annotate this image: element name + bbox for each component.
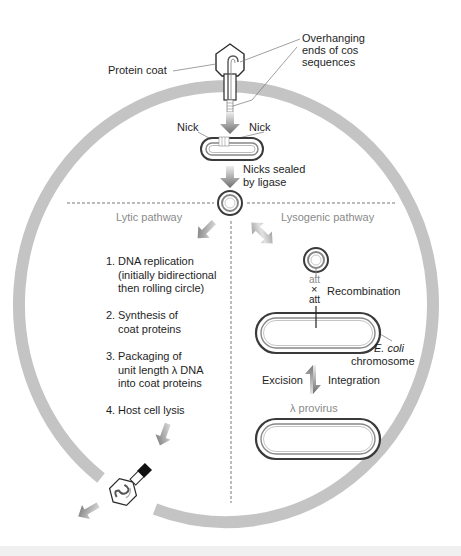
- provirus-label: λ provirus: [290, 402, 338, 415]
- nick-right-label: Nick: [249, 121, 270, 134]
- ecoli-chromosome: [256, 306, 380, 353]
- lysogenic-bidirectional-arrow-icon: [246, 217, 279, 250]
- nick-left-label: Nick: [177, 121, 198, 134]
- lysogenic-pathway-label: Lysogenic pathway: [281, 211, 374, 224]
- closed-circular-dna: [218, 191, 242, 215]
- provirus-chromosome: [256, 419, 380, 459]
- overhanging-label-line3: sequences: [302, 56, 355, 69]
- excision-integration-arrows-icon: [305, 365, 321, 394]
- lambda-lifecycle-diagram: Protein coat Overhanging ends of cos seq…: [0, 0, 461, 556]
- nicks-sealed-label-line1: Nicks sealed: [243, 163, 305, 176]
- phage-head-icon: [216, 44, 244, 112]
- lambda-circular-dna: [304, 248, 328, 277]
- recombination-label: Recombination: [327, 285, 400, 298]
- lytic-arrow-icon: [192, 216, 220, 244]
- protein-coat-label: Protein coat: [108, 64, 167, 77]
- chromosome-label: chromosome: [351, 355, 415, 368]
- arrow-down-sealed-icon: [220, 166, 240, 188]
- nicked-circular-dna: [201, 137, 263, 160]
- excision-label: Excision: [262, 374, 303, 387]
- integration-label: Integration: [328, 374, 380, 387]
- ecoli-label: E. coli: [374, 342, 404, 355]
- att-bacterial-label: att: [309, 295, 320, 305]
- released-phage-icon: [105, 458, 157, 510]
- exit-arrow-icon: [74, 498, 102, 523]
- bottom-strip: [0, 546, 461, 556]
- arrow-down-icon: [220, 112, 240, 134]
- recombination-cross-icon: ×: [311, 284, 317, 294]
- diagram-graphics: [0, 0, 461, 556]
- lytic-pathway-label: Lytic pathway: [116, 211, 182, 224]
- nicks-sealed-label-line2: by ligase: [243, 176, 286, 189]
- lysis-arrow-icon: [152, 421, 175, 448]
